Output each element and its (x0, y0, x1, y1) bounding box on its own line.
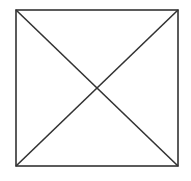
diagram-canvas (0, 0, 191, 181)
